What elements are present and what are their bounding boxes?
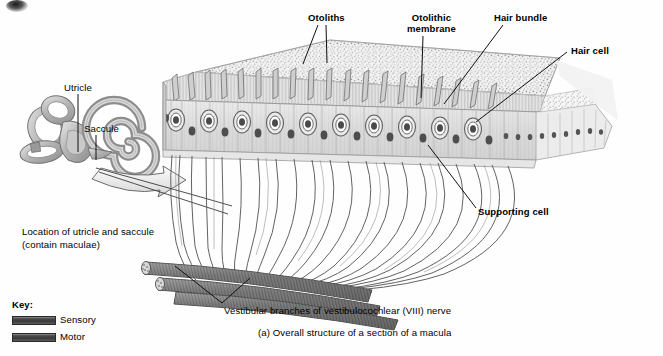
label-supporting-cell: Supporting cell [478, 206, 549, 217]
label-location-of-utricle-and-saccule: Location of utricle and saccule(contain … [22, 225, 154, 251]
label-hair-bundle: Hair bundle [494, 12, 547, 23]
diagram-canvas [0, 0, 663, 356]
label-hair-cell: Hair cell [571, 45, 609, 56]
key-motor-label: Motor [60, 331, 85, 342]
label-location-line2: (contain maculae) [22, 239, 100, 250]
key-sensory-label: Sensory [60, 314, 96, 325]
label-otolithic-membrane-line1: Otolithic [412, 12, 451, 23]
label-otolithic-membrane-line2: membrane [407, 23, 456, 34]
vestibular-nerve-trunks [142, 262, 399, 331]
label-otolithic-membrane: Otolithicmembrane [407, 12, 456, 34]
macula-block [163, 40, 618, 168]
figure-caption: (a) Overall structure of a section of a … [258, 327, 451, 338]
key-sensory-swatch [12, 316, 56, 325]
figure-macula-structure: Otoliths Otolithicmembrane Hair bundle H… [0, 0, 663, 356]
key-motor-swatch [12, 333, 56, 342]
label-otoliths: Otoliths [308, 12, 345, 23]
label-utricle: Utricle [64, 82, 92, 93]
label-vestibular-nerve: Vestibular branches of vestibulocochlear… [224, 305, 451, 316]
label-saccule: Saccule [84, 123, 119, 134]
label-location-line1: Location of utricle and saccule [22, 226, 154, 237]
key-title: Key: [12, 299, 33, 310]
bony-labyrinth [19, 91, 156, 177]
